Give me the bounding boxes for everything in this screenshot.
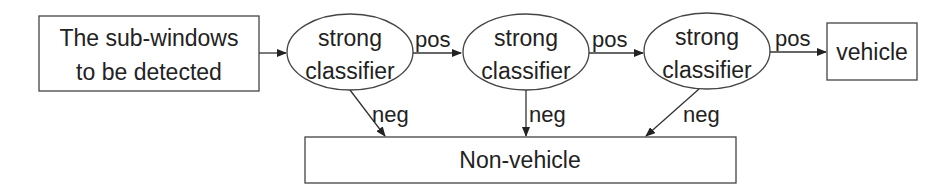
classifier-1: strong classifier: [287, 14, 413, 90]
pos-label-1: pos: [415, 27, 450, 52]
input-box-line2: to be detected: [76, 59, 222, 85]
classifier-1-line2: classifier: [305, 58, 395, 84]
cascade-diagram: The sub-windows to be detected strong cl…: [0, 0, 952, 192]
classifier-3: strong classifier: [644, 13, 770, 89]
vehicle-box: vehicle: [827, 23, 917, 80]
pos-label-2: pos: [592, 27, 627, 52]
input-box: The sub-windows to be detected: [39, 16, 259, 91]
classifier-1-line1: strong: [318, 25, 382, 51]
pos-label-3: pos: [775, 26, 810, 51]
neg-label-1: neg: [372, 102, 409, 127]
classifier-2-line2: classifier: [481, 58, 571, 84]
classifier-2-line1: strong: [494, 25, 558, 51]
classifier-3-line1: strong: [675, 24, 739, 50]
classifier-2: strong classifier: [463, 14, 589, 90]
classifier-3-line2: classifier: [662, 57, 752, 83]
vehicle-label: vehicle: [836, 39, 908, 65]
neg-label-2: neg: [529, 102, 566, 127]
non-vehicle-box: Non-vehicle: [305, 137, 736, 183]
input-box-line1: The sub-windows: [60, 25, 239, 51]
non-vehicle-label: Non-vehicle: [459, 147, 580, 173]
neg-label-3: neg: [683, 102, 720, 127]
